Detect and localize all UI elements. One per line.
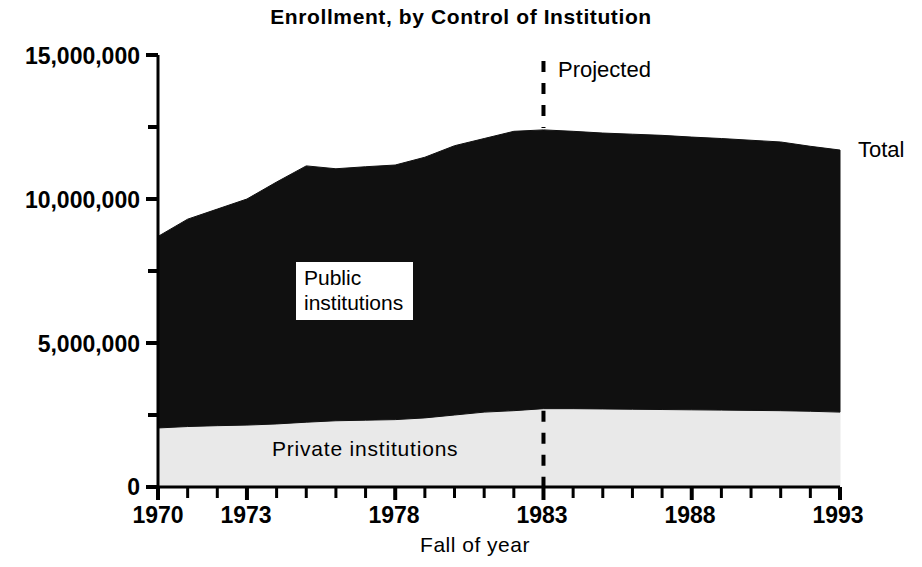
public-institutions-label-line1: Public xyxy=(304,266,361,289)
projected-label: Projected xyxy=(558,57,651,83)
xaxis-title: Fall of year xyxy=(330,533,620,557)
xtick-label-1983: 1983 xyxy=(492,504,592,527)
enrollment-area-chart-figure: Enrollment, by Control of Institution 15… xyxy=(0,0,922,567)
total-label: Total xyxy=(858,137,904,163)
xtick-label-1978: 1978 xyxy=(344,504,444,527)
ytick-label-15000000: 15,000,000 xyxy=(0,45,140,68)
xtick-label-1970: 1970 xyxy=(108,504,208,527)
xtick-label-1973: 1973 xyxy=(196,504,296,527)
ytick-label-0: 0 xyxy=(0,476,140,499)
public-institutions-label-line2: institutions xyxy=(304,291,403,314)
ytick-label-10000000: 10,000,000 xyxy=(0,189,140,212)
xtick-label-1993: 1993 xyxy=(788,504,888,527)
private-institutions-label: Private institutions xyxy=(272,437,458,461)
ytick-label-5000000: 5,000,000 xyxy=(0,333,140,356)
xtick-label-1988: 1988 xyxy=(640,504,740,527)
public-institutions-label: Public institutions xyxy=(296,262,413,320)
stacked-area-group xyxy=(158,130,840,487)
